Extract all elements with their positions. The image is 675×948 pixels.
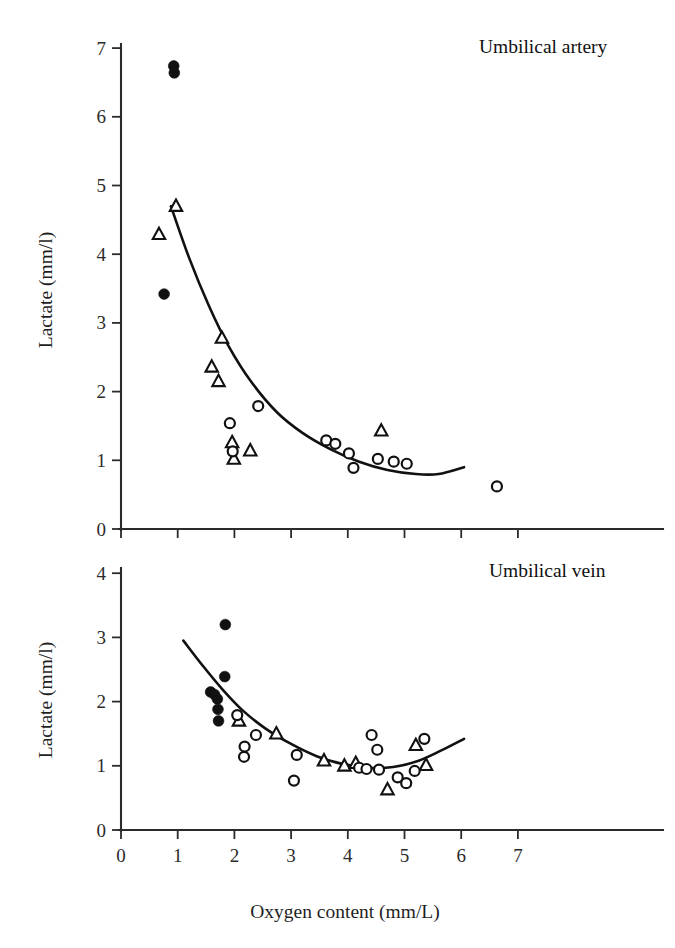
y-tick-label: 7	[97, 38, 107, 59]
y-tick-label: 2	[97, 691, 107, 712]
data-point-open-circle	[344, 448, 354, 458]
x-axis-title: Oxygen content (mm/L)	[250, 901, 440, 923]
data-point-open-triangle	[216, 331, 228, 342]
data-point-open-circle	[348, 463, 358, 473]
data-point-open-triangle	[381, 783, 393, 794]
data-point-open-circle	[232, 710, 242, 720]
y-tick-label: 4	[97, 244, 107, 265]
y-ticks-top	[112, 48, 121, 529]
data-point-filled-circle	[213, 715, 224, 726]
y-tick-labels-bottom: 01234	[97, 563, 107, 841]
y-tick-label: 4	[97, 563, 107, 584]
data-point-open-circle	[289, 776, 299, 786]
x-tick-labels-bottom: 01234567	[116, 845, 522, 866]
panel-umbilical-artery: 01234567 Umbilical artery	[97, 36, 664, 540]
data-point-filled-circle	[169, 67, 180, 78]
data-markers-artery	[153, 61, 502, 492]
data-point-open-circle	[239, 752, 249, 762]
data-point-open-circle	[225, 418, 235, 428]
y-tick-label: 0	[97, 820, 107, 841]
data-point-open-circle	[373, 454, 383, 464]
y-tick-labels-top: 01234567	[97, 38, 107, 540]
data-point-open-circle	[362, 764, 372, 774]
data-point-open-circle	[374, 765, 384, 775]
data-point-open-circle	[253, 401, 263, 411]
y-tick-label: 6	[97, 106, 107, 127]
x-tick-label: 7	[513, 845, 523, 866]
data-point-open-circle	[372, 745, 382, 755]
data-point-open-circle	[401, 778, 411, 788]
x-tick-label: 1	[173, 845, 183, 866]
data-point-open-circle	[240, 742, 250, 752]
y-tick-label: 1	[97, 450, 107, 471]
data-point-filled-circle	[212, 694, 223, 705]
y-axis-title-bottom: Lactate (mm/l)	[35, 642, 57, 758]
data-point-open-circle	[228, 446, 238, 456]
x-ticks-top	[121, 529, 518, 538]
data-point-open-triangle	[375, 424, 387, 435]
data-point-filled-circle	[213, 704, 224, 715]
data-point-open-circle	[419, 734, 429, 744]
y-ticks-bottom	[112, 573, 121, 830]
y-tick-label: 1	[97, 755, 107, 776]
lactate-oxygen-figure: 01234567 Umbilical artery 01234 01234567…	[0, 0, 675, 948]
data-point-open-circle	[330, 439, 340, 449]
data-point-open-circle	[492, 481, 502, 491]
data-point-filled-circle	[220, 619, 231, 630]
data-point-open-circle	[410, 766, 420, 776]
data-point-open-triangle	[206, 360, 218, 371]
y-tick-label: 3	[97, 312, 107, 333]
data-point-open-triangle	[244, 444, 256, 455]
x-tick-label: 3	[286, 845, 296, 866]
figure-canvas: 01234567 Umbilical artery 01234 01234567…	[0, 0, 675, 948]
y-axis-title-top: Lactate (mm/l)	[35, 232, 57, 348]
fitted-curve-artery	[171, 206, 464, 475]
data-point-open-circle	[402, 459, 412, 469]
y-tick-label: 2	[97, 381, 107, 402]
panel-title-vein: Umbilical vein	[489, 560, 606, 581]
y-tick-label: 0	[97, 519, 107, 540]
data-point-open-triangle	[153, 228, 165, 239]
data-point-open-circle	[367, 730, 377, 740]
data-point-filled-circle	[159, 289, 170, 300]
panel-umbilical-vein: 01234 01234567 Umbilical vein	[97, 560, 664, 866]
x-tick-label: 5	[400, 845, 410, 866]
y-tick-label: 5	[97, 175, 107, 196]
x-tick-label: 2	[230, 845, 240, 866]
data-point-open-circle	[389, 457, 399, 467]
data-point-open-circle	[292, 750, 302, 760]
x-ticks-bottom	[121, 830, 518, 839]
x-tick-label: 0	[116, 845, 126, 866]
panel-title-artery: Umbilical artery	[479, 36, 608, 57]
data-point-open-triangle	[212, 375, 224, 386]
x-tick-label: 6	[456, 845, 466, 866]
data-point-filled-circle	[219, 671, 230, 682]
x-tick-label: 4	[343, 845, 353, 866]
y-tick-label: 3	[97, 627, 107, 648]
data-point-open-circle	[251, 730, 261, 740]
